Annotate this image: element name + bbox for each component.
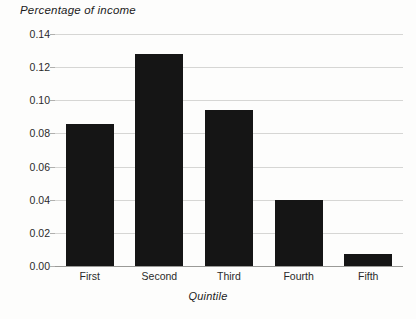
bar[interactable] [275,200,323,266]
y-tick-mark [50,133,55,134]
bar[interactable] [66,124,114,267]
bar-slot [333,34,403,266]
bar[interactable] [135,54,183,266]
y-tick-mark [50,233,55,234]
bar-slot [55,34,125,266]
x-tick-label: Fourth [283,270,313,282]
y-tick-label: 0.06 [16,161,50,173]
y-tick-label: 0.02 [16,227,50,239]
bar-slot [194,34,264,266]
y-tick-label: 0.14 [16,28,50,40]
y-tick-mark [50,266,55,267]
y-tick-label: 0.08 [16,127,50,139]
x-tick-label: Second [142,270,178,282]
y-tick-label: 0.10 [16,94,50,106]
bar-slot [125,34,195,266]
y-tick-mark [50,100,55,101]
y-tick-label: 0.00 [16,260,50,272]
bar-slot [264,34,334,266]
bar[interactable] [344,254,392,266]
y-tick-mark [50,167,55,168]
y-tick-mark [50,200,55,201]
x-tick-label: First [80,270,100,282]
bar-chart: Percentage of income 0.000.020.040.060.0… [0,0,416,319]
x-axis: FirstSecondThirdFourthFifth [55,270,403,290]
x-tick-label: Fifth [358,270,378,282]
y-tick-label: 0.12 [16,61,50,73]
x-axis-line [55,266,403,267]
y-tick-label: 0.04 [16,194,50,206]
bar[interactable] [205,110,253,266]
y-tick-mark [50,67,55,68]
y-axis: 0.000.020.040.060.080.100.120.14 [8,0,50,319]
y-tick-mark [50,34,55,35]
plot-area [55,34,403,266]
x-tick-label: Third [217,270,241,282]
x-axis-title: Quintile [0,290,416,302]
